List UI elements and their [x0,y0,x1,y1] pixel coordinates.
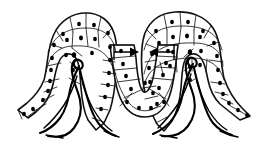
figure-root: Epithelial fold with converging arrows L… [0,0,267,160]
epithelial-fold-diagram: Epithelial fold with converging arrows L… [0,0,267,160]
